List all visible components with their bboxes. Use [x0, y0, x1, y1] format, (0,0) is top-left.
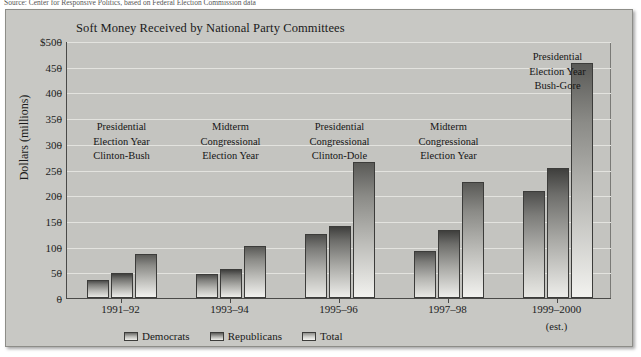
bar-dem: [523, 191, 545, 298]
bar-dem: [87, 280, 109, 299]
bar-tot: [571, 63, 593, 298]
gridline: [67, 42, 611, 43]
y-tick-mark: [57, 273, 62, 274]
bar-tot: [244, 246, 266, 298]
annotation-line: Presidential: [93, 120, 150, 135]
bar-group-annotation: MidtermCongressionalElection Year: [418, 120, 478, 164]
annotation-line: Clinton-Dole: [309, 149, 369, 164]
y-tick-mark: [57, 119, 62, 120]
annotation-line: Bush-Gore: [529, 79, 586, 94]
bar-tot: [353, 162, 375, 298]
x-axis-labels: 1991–921993–941995–961997–981999–2000(es…: [66, 303, 611, 321]
annotation-line: Congressional: [200, 135, 260, 150]
x-tick-label: 1993–94: [210, 303, 249, 315]
legend-item-rep[interactable]: Republicans: [210, 330, 282, 342]
chart-figure: Soft Money Received by National Party Co…: [5, 9, 633, 347]
bar-dem: [196, 274, 218, 298]
bar-rep: [329, 226, 351, 298]
bar-group: [523, 63, 593, 298]
y-tick-mark: [57, 248, 62, 249]
bar-tot: [462, 182, 484, 298]
legend-item-dem[interactable]: Democrats: [124, 330, 190, 342]
x-tick-label: 1995–96: [319, 303, 358, 315]
annotation-line: Congressional: [418, 135, 478, 150]
y-tick-mark: [57, 171, 62, 172]
bar-group-annotation: MidtermCongressionalElection Year: [200, 120, 260, 164]
legend-swatch-icon: [210, 332, 224, 341]
x-tick-label: 1997–98: [428, 303, 467, 315]
bar-group: [196, 246, 266, 298]
annotation-line: Midterm: [200, 120, 260, 135]
legend-label: Democrats: [142, 330, 190, 342]
legend-label: Total: [320, 330, 342, 342]
x-tick-label: 1991–92: [101, 303, 140, 315]
bar-group: [87, 254, 157, 298]
annotation-line: Election Year: [93, 135, 150, 150]
plot-area: PresidentialElection YearClinton-BushMid…: [66, 42, 611, 299]
y-tick-mark: [57, 93, 62, 94]
estimate-note: (est.): [546, 321, 567, 332]
bar-rep: [111, 273, 133, 298]
bar-dem: [305, 234, 327, 298]
y-tick-mark: [57, 299, 62, 300]
annotation-line: Presidential: [529, 50, 586, 65]
bar-tot: [135, 254, 157, 298]
y-tick-mark: [57, 196, 62, 197]
annotation-line: Election Year: [418, 149, 478, 164]
legend-swatch-icon: [302, 332, 316, 341]
bar-dem: [414, 251, 436, 298]
bar-group: [305, 162, 375, 298]
legend-swatch-icon: [124, 332, 138, 341]
bar-group-annotation: PresidentialCongressionalClinton-Dole: [309, 120, 369, 164]
bar-group: [414, 182, 484, 298]
figure-page: Source: Center for Responsive Politics, …: [0, 0, 641, 357]
y-tick-mark: [57, 222, 62, 223]
chart-legend: DemocratsRepublicansTotal: [124, 330, 343, 342]
legend-item-tot[interactable]: Total: [302, 330, 342, 342]
annotation-line: Election Year: [200, 149, 260, 164]
y-tick-mark: [57, 42, 62, 43]
x-tick-label: 1999–2000: [532, 303, 582, 315]
annotation-line: Midterm: [418, 120, 478, 135]
source-note: Source: Center for Responsive Politics, …: [4, 0, 256, 7]
bar-rep: [220, 269, 242, 298]
chart-title: Soft Money Received by National Party Co…: [76, 21, 345, 36]
bar-rep: [547, 168, 569, 298]
bar-group-annotation: PresidentialElection YearBush-Gore: [529, 50, 586, 94]
annotation-line: Clinton-Bush: [93, 149, 150, 164]
y-tick-mark: [57, 68, 62, 69]
bar-rep: [438, 230, 460, 298]
y-tick-mark: [57, 145, 62, 146]
bar-group-annotation: PresidentialElection YearClinton-Bush: [93, 120, 150, 164]
annotation-line: Election Year: [529, 65, 586, 80]
annotation-line: Presidential: [309, 120, 369, 135]
y-axis-ticks: $500450400350300250200150100500: [6, 42, 62, 299]
annotation-line: Congressional: [309, 135, 369, 150]
legend-label: Republicans: [228, 330, 282, 342]
